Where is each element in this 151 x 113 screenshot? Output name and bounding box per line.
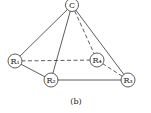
node-r1-label: R₁	[10, 57, 19, 66]
node-r3: R₃	[121, 73, 135, 87]
node-r2: R₂	[44, 73, 58, 87]
edge-c-r4	[72, 5, 97, 60]
edge-r1-r4	[15, 60, 97, 61]
node-c-label: C	[69, 1, 75, 10]
pyramid-diagram: C R₁ R₂ R₃ R₄ (b)	[0, 0, 151, 113]
edge-c-r2	[51, 5, 72, 80]
edge-c-r3	[72, 5, 128, 80]
node-r2-label: R₂	[46, 76, 55, 85]
edge-c-r1	[15, 5, 72, 61]
node-r3-label: R₃	[123, 76, 132, 85]
node-r4-label: R₄	[92, 56, 101, 65]
node-r1: R₁	[8, 54, 22, 68]
node-c: C	[66, 0, 79, 12]
node-r4: R₄	[90, 53, 104, 67]
figure-caption: (b)	[70, 97, 81, 106]
edges	[15, 5, 128, 80]
